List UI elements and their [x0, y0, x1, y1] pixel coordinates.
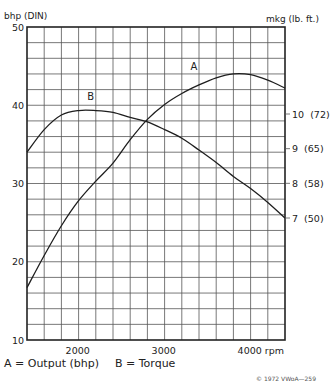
series-b-label: B	[87, 91, 94, 102]
engine-performance-chart: AB 200030004000 rpm102030405010 (72)9 (6…	[0, 0, 333, 387]
series-a-label: A	[190, 61, 197, 72]
series-b-line	[27, 110, 285, 218]
copyright-annotation: © 1972 VWoA—259	[256, 375, 316, 382]
left-axis-title: bhp (DIN)	[4, 11, 47, 21]
y-left-tick-label: 40	[12, 100, 24, 111]
legend-item-a: A = Output (bhp)	[4, 357, 99, 370]
y-right-tick-label: 8 (58)	[292, 178, 324, 189]
y-left-tick-label: 50	[12, 22, 24, 33]
y-right-tick-label: 7 (50)	[292, 213, 324, 224]
right-axis-title: mkg (lb. ft.)	[266, 14, 319, 24]
curves: AB	[27, 61, 285, 288]
x-tick-label: 3000	[152, 345, 176, 356]
x-tick-label: 2000	[66, 345, 90, 356]
y-left-tick-label: 10	[12, 335, 24, 346]
y-right-tick-label: 9 (65)	[292, 143, 324, 154]
y-left-tick-label: 30	[12, 178, 24, 189]
y-left-tick-label: 20	[12, 256, 24, 267]
y-right-tick-label: 10 (72)	[292, 109, 330, 120]
tick-labels: 200030004000 rpm102030405010 (72)9 (65)8…	[12, 22, 330, 357]
legend-item-b: B = Torque	[115, 357, 176, 370]
x-tick-label: 4000 rpm	[238, 345, 284, 356]
series-a-line	[27, 74, 285, 288]
